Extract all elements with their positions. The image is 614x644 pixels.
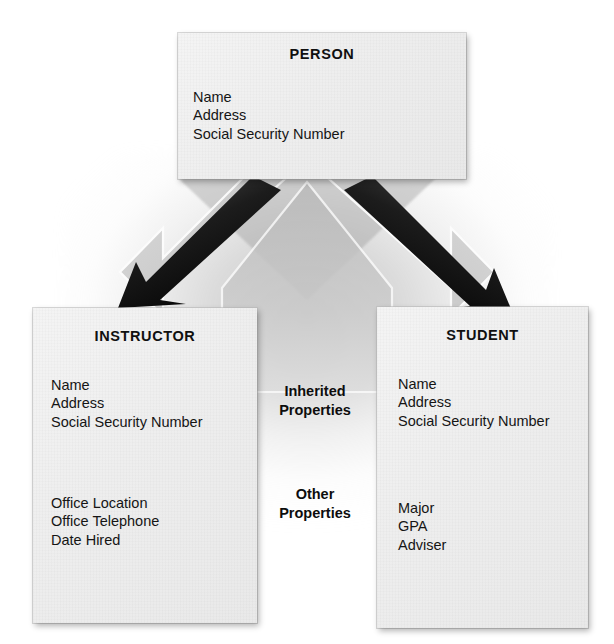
attribute-list-person: Name Address Social Security Number	[193, 88, 345, 143]
attribute-item: Office Location	[51, 494, 159, 512]
diagram-canvas: PERSON Name Address Social Security Numb…	[0, 0, 614, 644]
attribute-item: Adviser	[398, 536, 446, 554]
attribute-item: Address	[193, 106, 345, 124]
caption-inherited-properties: Inherited Properties	[250, 382, 380, 419]
other-attribute-list-instructor: Office Location Office Telephone Date Hi…	[51, 494, 159, 549]
attribute-item: Date Hired	[51, 531, 159, 549]
attribute-item: Major	[398, 499, 446, 517]
attribute-item: Name	[193, 88, 345, 106]
entity-box-person: PERSON Name Address Social Security Numb…	[178, 33, 466, 179]
arrow-person-to-instructor	[118, 176, 281, 308]
attribute-item: Name	[398, 375, 550, 393]
entity-title-person: PERSON	[178, 46, 466, 62]
other-attribute-list-student: Major GPA Adviser	[398, 499, 446, 554]
attribute-item: Social Security Number	[193, 125, 345, 143]
arrow-person-to-student	[344, 176, 514, 316]
decorative-arrow-left	[120, 178, 286, 316]
inherited-attribute-list-student: Name Address Social Security Number	[398, 375, 550, 430]
attribute-item: Social Security Number	[51, 413, 203, 431]
attribute-item: Address	[51, 394, 203, 412]
entity-title-student: STUDENT	[377, 327, 588, 343]
decorative-arrow-right	[328, 178, 494, 316]
inherited-attribute-list-instructor: Name Address Social Security Number	[51, 376, 203, 431]
attribute-item: Office Telephone	[51, 512, 159, 530]
caption-other-properties: Other Properties	[250, 485, 380, 522]
attribute-item: Name	[51, 376, 203, 394]
entity-title-instructor: INSTRUCTOR	[33, 328, 257, 344]
attribute-item: Address	[398, 393, 550, 411]
entity-box-instructor: INSTRUCTOR Name Address Social Security …	[33, 308, 257, 623]
attribute-item: Social Security Number	[398, 412, 550, 430]
entity-box-student: STUDENT Name Address Social Security Num…	[377, 307, 588, 628]
attribute-item: GPA	[398, 517, 446, 535]
